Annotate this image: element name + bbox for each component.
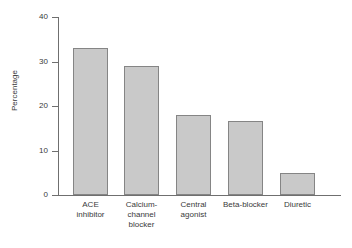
bar <box>176 115 211 195</box>
y-tick-mark <box>52 151 58 152</box>
bar <box>280 173 315 195</box>
y-tick-mark <box>52 195 58 196</box>
y-tick-label: 0 <box>2 191 48 199</box>
y-tick-mark <box>52 106 58 107</box>
y-tick-mark <box>52 17 58 18</box>
bar-chart: 010203040 Percentage ACEinhibitorCalcium… <box>0 0 352 248</box>
plot-area: 010203040 Percentage ACEinhibitorCalcium… <box>0 0 352 248</box>
y-tick-label: 10 <box>2 147 48 155</box>
bar <box>124 66 159 195</box>
y-axis-line <box>58 17 59 196</box>
y-axis-title: Percentage <box>10 51 19 131</box>
bar <box>228 121 263 195</box>
y-tick-label: 40 <box>2 13 48 21</box>
y-tick-mark <box>52 62 58 63</box>
bar <box>73 48 108 195</box>
x-tick-label: Diuretic <box>258 200 338 210</box>
x-axis-line <box>58 195 341 196</box>
